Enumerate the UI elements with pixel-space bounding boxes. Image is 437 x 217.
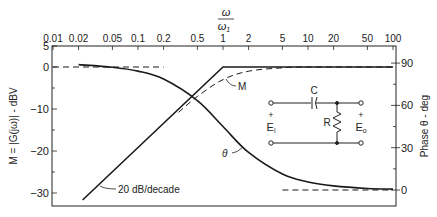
left-tick-label: −30 [30, 187, 49, 199]
annotation-slope-label: 20 dB/decade [118, 184, 180, 195]
annotation-theta: θ [222, 147, 243, 159]
x-tick-label: 5 [280, 33, 286, 44]
x-tick-label: 100 [385, 33, 402, 44]
x-tick-label: 10 [302, 33, 314, 44]
x-tick-label: 20 [328, 33, 340, 44]
right-tick-label: 30 [401, 142, 413, 154]
input-plus: + [268, 110, 273, 120]
right-tick-label: 90 [401, 57, 413, 69]
right-axis-ticks: 9060300 [391, 57, 413, 196]
x-tick-label: 0.5 [190, 33, 204, 44]
rc-circuit-diagram [269, 97, 363, 145]
capacitor-label: C [310, 85, 317, 96]
input-voltage-label: Ei [267, 121, 276, 134]
right-tick-label: 60 [401, 99, 413, 111]
annotation-M: M [226, 79, 246, 92]
x-tick-label: 0.02 [69, 33, 89, 44]
resistor-label: R [323, 117, 330, 128]
output-voltage-label: Eo [355, 121, 366, 134]
curves [53, 65, 393, 200]
x-tick-label: 1 [220, 33, 226, 44]
x-axis-title: ω ω1 [218, 6, 234, 33]
annotation-M-label: M [238, 81, 246, 92]
annotation-slope: 20 dB/decade [100, 184, 180, 195]
omega-label: ω [222, 6, 231, 18]
left-tick-label: −10 [30, 103, 49, 115]
left-tick-label: −20 [30, 145, 49, 157]
left-axis-label: M = |G(jω)| - dBV [8, 87, 19, 165]
bode-plot: ω ω1 0.010.020.050.10.20.5125102050100 5… [0, 0, 437, 217]
x-tick-label: 0.2 [157, 33, 171, 44]
left-tick-label: 5 [43, 40, 49, 52]
series-- [79, 65, 393, 190]
plot-frame [52, 46, 396, 206]
right-tick-label: 0 [401, 184, 407, 196]
right-axis-label: Phase θ - deg [419, 95, 430, 157]
output-terminal-bottom [359, 141, 363, 145]
x-tick-label: 0.1 [131, 33, 145, 44]
input-terminal-bottom [269, 141, 273, 145]
left-tick-label: 0 [43, 61, 49, 73]
x-axis-ticks: 0.010.020.050.10.20.5125102050100 [43, 33, 402, 50]
x-tick-label: 2 [246, 33, 252, 44]
annotation-theta-label: θ [222, 148, 228, 159]
output-plus: + [358, 110, 363, 120]
x-tick-label: 50 [362, 33, 374, 44]
left-axis-ticks: 50−10−20−30 [30, 40, 57, 199]
circuit-labels: C R + Ei + Eo [267, 85, 367, 134]
output-terminal-top [359, 101, 363, 105]
omega1-label: ω1 [218, 20, 231, 33]
input-terminal-top [269, 101, 273, 105]
x-tick-label: 0.05 [103, 33, 123, 44]
resistor [333, 103, 341, 143]
